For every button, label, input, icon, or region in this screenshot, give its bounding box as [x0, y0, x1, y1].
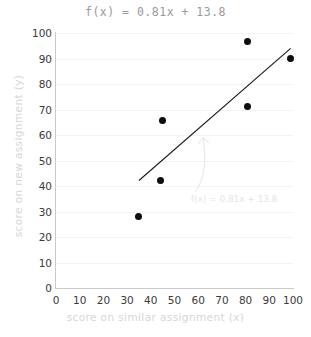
- x-axis-spine: [55, 288, 294, 289]
- y-axis-spine: [55, 32, 56, 289]
- x-axis-label: score on similar assignment (x): [0, 311, 311, 323]
- grid-line: [56, 161, 293, 162]
- plot-area: [56, 33, 293, 288]
- grid-line: [56, 186, 293, 187]
- grid-line: [56, 33, 293, 34]
- grid-line: [56, 110, 293, 111]
- data-point: [287, 55, 294, 62]
- grid-line: [56, 135, 293, 136]
- x-tick-label: 100: [278, 294, 308, 306]
- grid-line: [56, 84, 293, 85]
- grid-line: [56, 59, 293, 60]
- y-axis-tick-labels: 0102030405060708090100: [0, 0, 52, 337]
- y-tick-label: 0: [18, 282, 52, 294]
- scatter-plot-figure: f(x) = 0.81x + 13.8 01020304050607080901…: [0, 0, 311, 337]
- y-axis-label: score on new assignment (y): [12, 46, 24, 266]
- grid-line: [56, 212, 293, 213]
- regression-equation-annotation: f(x) = 0.81x + 13.8: [191, 194, 277, 204]
- grid-line: [56, 263, 293, 264]
- y-tick-label: 100: [18, 27, 52, 39]
- grid-line: [56, 237, 293, 238]
